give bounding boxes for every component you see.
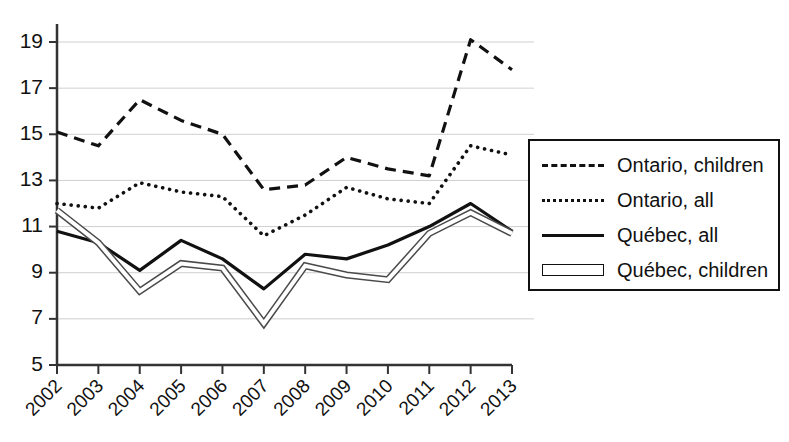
legend-label: Québec, children [617, 260, 768, 280]
y-tick-label: 9 [31, 259, 43, 282]
y-tick-label: 11 [21, 213, 43, 236]
x-tick-label: 2009 [311, 375, 356, 420]
x-tick-label: 2007 [228, 375, 273, 420]
chart-legend: Ontario, children Ontario, all Québec, a… [528, 139, 780, 291]
legend-label: Ontario, children [617, 155, 764, 175]
legend-swatch-dashed-icon [542, 158, 604, 172]
x-tick-marks [57, 365, 512, 374]
legend-item-ontario-children: Ontario, children [530, 147, 778, 182]
x-tick-label: 2006 [187, 375, 232, 420]
x-tick-label: 2008 [269, 375, 314, 420]
y-tick-label: 7 [31, 305, 43, 328]
y-axis-tick-labels: 5791113151719 [20, 29, 43, 375]
legend-swatch-dotted-icon [542, 193, 604, 207]
series-ontario-children [57, 40, 512, 190]
y-tick-label: 19 [20, 29, 43, 52]
data-series-group [57, 40, 512, 324]
x-tick-label: 2011 [394, 375, 438, 419]
x-axis-tick-labels: 2002200320042005200620072008200920102011… [21, 375, 521, 420]
x-tick-label: 2002 [21, 375, 66, 420]
x-tick-label: 2010 [352, 375, 397, 420]
y-tick-label: 17 [20, 75, 43, 98]
x-tick-label: 2012 [435, 375, 480, 420]
x-tick-label: 2004 [104, 375, 149, 420]
legend-label: Ontario, all [617, 190, 714, 210]
series-qu-bec-children-core [57, 210, 512, 323]
y-tick-label: 15 [20, 121, 43, 144]
legend-item-quebec-all: Québec, all [530, 217, 778, 252]
series-ontario-all [57, 146, 512, 236]
x-tick-label: 2013 [476, 375, 521, 420]
legend-item-ontario-all: Ontario, all [530, 182, 778, 217]
legend-swatch-solid-icon [542, 228, 604, 242]
chart-figure: 5791113151719 20022003200420052006200720… [0, 0, 789, 442]
x-tick-label: 2005 [145, 375, 190, 420]
legend-item-quebec-children: Québec, children [530, 252, 778, 287]
legend-label: Québec, all [617, 225, 718, 245]
y-tick-label: 13 [20, 167, 43, 190]
y-tick-label: 5 [31, 352, 43, 375]
legend-swatch-double-icon [542, 264, 604, 276]
x-tick-label: 2003 [62, 375, 107, 420]
